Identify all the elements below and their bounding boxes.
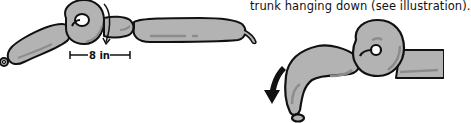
balloon-knot-icon [0, 58, 8, 66]
measurement-label: 8 in [89, 50, 110, 61]
arrow-down-curved-icon [264, 66, 286, 104]
balloon-knot-icon [292, 114, 304, 122]
instruction-caption: trunk hanging down (see illustration). [250, 0, 471, 13]
balloon-left-illustration [0, 0, 256, 66]
balloon-right-illustration [285, 20, 444, 122]
